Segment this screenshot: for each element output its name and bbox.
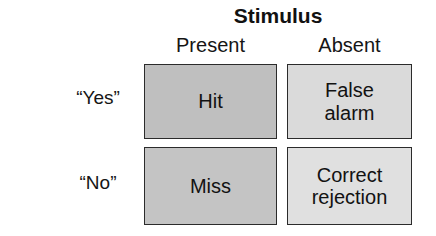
row-label-yes: “Yes” bbox=[56, 85, 140, 111]
matrix-cell-false-alarm-label-line1: False bbox=[325, 79, 374, 101]
matrix-cell-false-alarm-label-line2: alarm bbox=[324, 102, 374, 124]
matrix-cell-false-alarm: False alarm bbox=[287, 64, 412, 139]
column-header-present: Present bbox=[144, 32, 277, 58]
matrix-cell-miss: Miss bbox=[144, 147, 277, 225]
participants-response-axis-title: Participant's response bbox=[0, 64, 8, 226]
stimulus-axis-title: Stimulus bbox=[144, 4, 412, 28]
matrix-cell-false-alarm-label: False alarm bbox=[320, 79, 378, 124]
matrix-cell-correct-rejection-label-line1: Correct bbox=[317, 164, 383, 186]
matrix-cell-correct-rejection-label-line2: rejection bbox=[312, 186, 388, 208]
matrix-cell-correct-rejection-label: Correct rejection bbox=[308, 164, 392, 209]
row-label-no: “No” bbox=[56, 170, 140, 196]
matrix-cell-miss-label: Miss bbox=[186, 175, 235, 197]
signal-detection-matrix-figure: Stimulus Present Absent Participant's re… bbox=[0, 0, 436, 236]
participants-response-axis-title-line2: response bbox=[0, 106, 1, 184]
column-header-absent: Absent bbox=[287, 32, 412, 58]
matrix-cell-hit: Hit bbox=[144, 64, 277, 139]
matrix-cell-correct-rejection: Correct rejection bbox=[287, 147, 412, 225]
matrix-cell-hit-label: Hit bbox=[194, 90, 226, 112]
